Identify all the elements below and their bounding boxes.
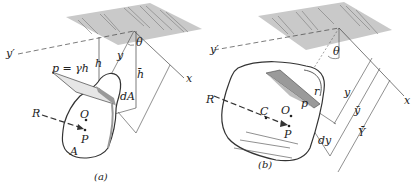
point-P-a [84,129,87,132]
point-O-b [290,115,293,118]
panel-b: y′ θ x y ȳ Ȳ R C O P p r dy (b) [205,2,411,172]
label-y-bar-b: ȳ [353,104,361,117]
label-P-a: P [80,133,89,146]
free-surface-a [66,3,202,45]
label-theta-b: θ [333,45,340,58]
label-O-b: O [281,104,290,117]
theta-arc-a [128,44,134,45]
panel-a: y′ θ y h h̄ x p = γh dA R O P A (a) [5,3,202,182]
label-y-prime-b: y′ [209,43,219,56]
label-R-a: R [31,107,40,120]
label-p-b: p [301,97,308,110]
label-A-a: A [69,145,78,158]
label-y-a: y [116,49,124,62]
free-surface-b [258,2,392,50]
caption-b: (b) [258,159,272,170]
caption-a: (a) [94,171,108,182]
label-pressure-a: p = γh [52,62,89,75]
label-Y-bar-b: Ȳ [358,126,367,139]
label-P-b: P [283,128,292,141]
label-y-prime-a: y′ [5,47,15,60]
point-P-b [288,125,291,128]
hydrostatic-pressure-figure: y′ θ y h h̄ x p = γh dA R O P A (a) [0,0,413,190]
label-theta-a: θ [136,36,143,49]
label-h-bar-a: h̄ [137,68,144,81]
label-x-a: x [186,72,193,85]
label-h-a: h [95,57,102,70]
label-r-b: r [314,85,320,98]
label-R-b: R [205,93,214,106]
label-O-a: O [80,108,89,121]
label-y-b: y [343,86,351,99]
label-x-b: x [404,94,411,107]
label-dA-a: dA [120,90,135,103]
label-C-b: C [260,105,269,118]
dimension-lines-b [312,58,390,172]
label-dy-b: dy [318,134,332,147]
